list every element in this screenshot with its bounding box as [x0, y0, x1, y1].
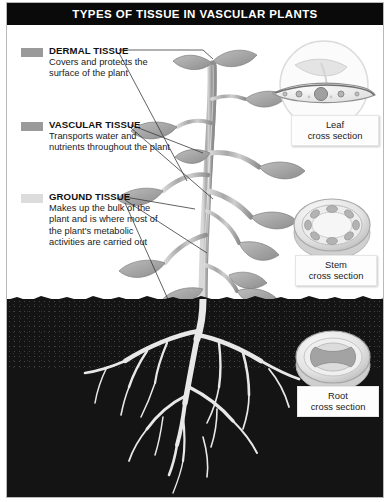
- vascular-title: VASCULAR TISSUE: [49, 119, 140, 130]
- vascular-swatch: [21, 122, 43, 131]
- ground-description: Makes up the bulk of the plant and is wh…: [49, 203, 171, 249]
- plant-stem: [163, 65, 259, 303]
- stem-cross-section-label: Stem cross section: [295, 255, 377, 286]
- diagram-panel: TYPES OF TISSUE IN VASCULAR PLANTS: [6, 2, 384, 498]
- root-cross-section-label: Root cross section: [297, 386, 379, 417]
- dermal-swatch: [21, 48, 43, 57]
- stem-cross-section-icon: [289, 189, 375, 265]
- dermal-title: DERMAL TISSUE: [49, 45, 128, 56]
- legend-item-dermal[interactable]: DERMAL TISSUE Covers and protects the su…: [21, 45, 171, 80]
- ground-title: GROUND TISSUE: [49, 191, 130, 202]
- leaf-cross-section-label: Leaf cross section: [291, 115, 379, 146]
- legend-item-ground[interactable]: GROUND TISSUE Makes up the bulk of the p…: [21, 191, 171, 249]
- legend-item-vascular[interactable]: VASCULAR TISSUE Transports water and nut…: [21, 119, 171, 154]
- ground-swatch: [21, 194, 43, 203]
- dermal-description: Covers and protects the surface of the p…: [49, 57, 171, 80]
- stem-cross-section-inset: [289, 189, 375, 265]
- vascular-description: Transports water and nutrients throughou…: [49, 131, 171, 154]
